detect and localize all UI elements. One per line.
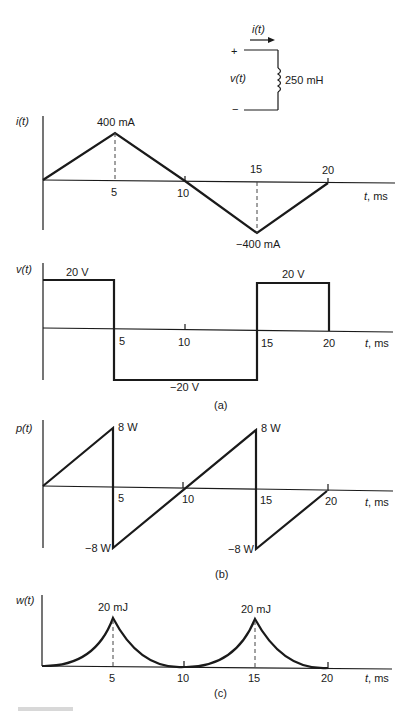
power-chart-ylabel: p(t): [15, 422, 33, 434]
plus-terminal: +: [231, 45, 237, 57]
caption-b: (b): [215, 568, 228, 580]
energy-chart-xaxis: [42, 666, 392, 669]
voltage-high-label-2: 20 V: [282, 268, 305, 280]
energy-chart-xlabel: t, ms: [365, 672, 389, 684]
current-peak-label: 400 mA: [97, 116, 136, 128]
voltage-low-label: −20 V: [170, 381, 200, 393]
xtick-10: 10: [177, 672, 189, 684]
energy-chart-ylabel: w(t): [16, 594, 35, 606]
figure-canvas: + i(t) 250 mH v(t) − i(t) 400 mA −400 mA…: [0, 0, 415, 711]
minus-terminal: −: [232, 103, 238, 115]
inductor-value: 250 mH: [285, 74, 324, 86]
xtick-10: 10: [182, 493, 194, 505]
xtick-20: 20: [322, 164, 334, 176]
voltage-chart-xlabel: t, ms: [365, 337, 389, 349]
current-arrowhead-icon: [268, 37, 275, 43]
power-peak-label-2: 8 W: [261, 422, 281, 434]
energy-waveform: [42, 618, 328, 668]
power-chart: p(t) 8 W 8 W −8 W −8 W 5 10 15 20 t, ms …: [15, 420, 393, 580]
power-trough-label-2: −8 W: [228, 543, 255, 555]
xtick-20: 20: [321, 672, 333, 684]
xtick-15: 15: [261, 337, 273, 349]
inductor-coil-icon: [278, 68, 281, 92]
current-trough-label: −400 mA: [236, 238, 281, 250]
xtick-20: 20: [325, 495, 337, 507]
energy-peak-label-2: 20 mJ: [241, 603, 271, 615]
caption-a: (a): [214, 399, 227, 411]
voltage-high-label-1: 20 V: [66, 266, 89, 278]
power-peak-label-1: 8 W: [118, 421, 138, 433]
xtick-5: 5: [119, 335, 125, 347]
xtick-5: 5: [118, 492, 124, 504]
current-label: i(t): [252, 23, 265, 35]
xtick-5: 5: [109, 672, 115, 684]
energy-chart: w(t) 20 mJ 20 mJ 5 10 15 20 t, ms (c): [16, 594, 392, 699]
xtick-20: 20: [323, 337, 335, 349]
xtick-10: 10: [178, 336, 190, 348]
xtick-5: 5: [111, 186, 117, 198]
xtick-15: 15: [260, 494, 272, 506]
current-chart-ylabel: i(t): [16, 115, 29, 127]
energy-peak-label-1: 20 mJ: [98, 601, 128, 613]
voltage-chart-ylabel: v(t): [16, 263, 32, 275]
power-trough-label-1: −8 W: [85, 542, 112, 554]
xtick-10: 10: [177, 187, 189, 199]
power-chart-xaxis: [43, 486, 393, 491]
power-chart-xlabel: t, ms: [365, 496, 389, 508]
voltage-label: v(t): [230, 72, 246, 84]
current-waveform: [43, 133, 328, 233]
current-chart: i(t) 400 mA −400 mA 5 10 15 20 t, ms: [16, 115, 395, 250]
caption-c: (c): [214, 687, 227, 699]
xtick-15: 15: [250, 163, 262, 175]
figure-caption-fragment: [18, 707, 73, 711]
current-chart-xaxis: [43, 180, 395, 183]
circuit-diagram: + i(t) 250 mH v(t) −: [230, 23, 324, 115]
power-waveform: [43, 428, 327, 549]
current-chart-xlabel: t, ms: [364, 190, 388, 202]
voltage-chart: v(t) 20 V 20 V −20 V 5 10 15 20 t, ms (a…: [16, 263, 393, 411]
xtick-15: 15: [248, 672, 260, 684]
voltage-chart-xaxis: [43, 328, 393, 332]
